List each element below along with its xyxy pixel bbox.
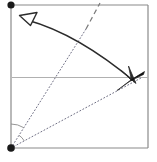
rotation-arrow-curve — [27, 20, 135, 82]
angle-arc-inner — [19, 135, 24, 141]
top-left-vertex — [7, 1, 14, 8]
diagram-canvas — [0, 0, 157, 162]
angle-arc-outer — [11, 124, 24, 128]
bottom-left-vertex — [7, 144, 15, 152]
arrowhead-open-upper-left — [20, 13, 38, 26]
dashed-crease-extension — [86, 3, 100, 29]
dotted-ray-lower — [11, 78, 141, 148]
arrowhead-solid-lower-right — [122, 66, 137, 84]
dotted-ray-upper — [11, 29, 86, 148]
fold-diagram-svg — [0, 0, 157, 162]
